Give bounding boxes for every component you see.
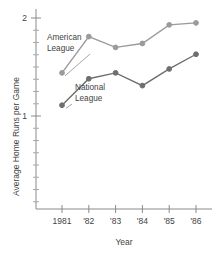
x-tick-label: 1981 xyxy=(53,216,72,226)
data-point xyxy=(167,67,172,72)
y-axis-title-wrapper: Average Home Runs per Game xyxy=(0,0,19,259)
data-point xyxy=(86,34,91,39)
data-point xyxy=(113,70,118,75)
x-tick-label: '85 xyxy=(164,216,175,226)
chart-svg: 12 1981'82'83'84'85'86 American League N… xyxy=(0,0,224,259)
data-point xyxy=(60,103,65,108)
annotation-layer: American League National League xyxy=(47,33,105,108)
national-league-label-line2: League xyxy=(75,94,103,103)
x-axis-tick-labels: 1981'82'83'84'85'86 xyxy=(53,216,202,226)
data-point xyxy=(60,70,65,75)
y-tick-label: 1 xyxy=(22,111,27,121)
american-league-label-line2: League xyxy=(47,44,75,53)
x-tick-label: '84 xyxy=(137,216,148,226)
data-point xyxy=(113,45,118,50)
x-axis-title: Year xyxy=(115,237,132,247)
data-point xyxy=(194,21,199,26)
y-axis-tick-labels: 12 xyxy=(22,13,27,121)
data-point xyxy=(140,41,145,46)
y-tick-label: 2 xyxy=(22,13,27,23)
x-tick-label: '83 xyxy=(110,216,121,226)
y-axis-title: Average Home Runs per Game xyxy=(11,77,21,196)
national-league-label-line1: National xyxy=(75,83,105,92)
american-league-leader-line xyxy=(65,54,90,76)
national-league-leader-line xyxy=(66,104,72,108)
chart-container: Average Home Runs per Game 12 1981'82'83… xyxy=(0,0,224,259)
data-point xyxy=(194,52,199,57)
data-point xyxy=(140,83,145,88)
data-point xyxy=(86,76,91,81)
x-tick-label: '82 xyxy=(83,216,94,226)
x-tick-label: '86 xyxy=(190,216,201,226)
data-point xyxy=(167,22,172,27)
american-league-label-line1: American xyxy=(47,33,82,42)
